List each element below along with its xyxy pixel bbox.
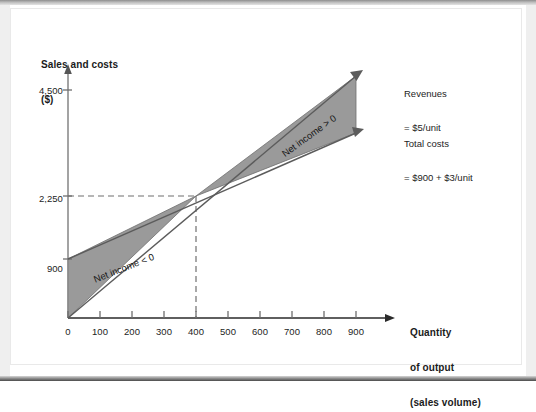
y-axis-title-line1: Sales and costs	[41, 59, 118, 71]
chart-figure: 0 100 200 300 400 500 600 700 800 900 Sa…	[10, 8, 522, 365]
revenues-annotation-line1: Revenues	[404, 88, 447, 99]
x-tick-label: 500	[220, 326, 236, 337]
x-tick-labels: 0 100 200 300 400 500 600 700 800 900	[65, 326, 364, 337]
loss-region-fill	[68, 196, 196, 318]
x-axis-title: Quantity of output (sales volume)	[410, 303, 481, 412]
x-tick-label: 600	[252, 326, 268, 337]
total-costs-annotation-line2: = $900 + $3/unit	[404, 172, 473, 183]
x-tick-label: 400	[188, 326, 204, 337]
x-axis-title-line1: Quantity	[410, 327, 481, 339]
total-costs-annotation-line1: Total costs	[404, 138, 473, 149]
x-tick-label: 100	[92, 326, 108, 337]
y-tick-label-2250: 2,250	[39, 193, 63, 204]
page-top-edge	[0, 0, 536, 5]
x-axis-title-line2: of output	[410, 362, 481, 374]
total-cost-line-arrowhead	[352, 127, 364, 137]
y-axis-title: Sales and costs ($)	[41, 35, 118, 129]
y-tick-label-4500: 4,500	[39, 85, 63, 96]
x-axis-title-line3: (sales volume)	[410, 397, 481, 409]
y-tick-label-900: 900	[47, 263, 63, 274]
x-tick-label: 0	[65, 326, 70, 337]
x-tick-label: 700	[284, 326, 300, 337]
profit-region-fill	[196, 76, 356, 196]
x-tick-marks	[68, 311, 356, 318]
x-axis-arrowhead	[385, 314, 395, 322]
x-tick-label: 900	[348, 326, 364, 337]
page-left-margin	[0, 5, 10, 376]
page-right-margin	[526, 5, 536, 376]
x-tick-label: 300	[156, 326, 172, 337]
total-costs-annotation: Total costs = $900 + $3/unit	[404, 116, 473, 206]
x-tick-label: 200	[124, 326, 140, 337]
x-tick-label: 800	[316, 326, 332, 337]
